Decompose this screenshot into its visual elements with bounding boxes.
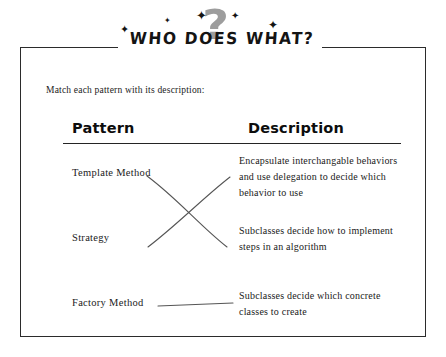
pattern-item-template-method[interactable]: Template Method bbox=[72, 167, 151, 178]
page-title: WHO DOES WHAT? bbox=[113, 29, 330, 48]
pattern-item-strategy[interactable]: Strategy bbox=[72, 232, 109, 243]
banner: ? ✦ ✦ ✦ ✦ ✦ WHO DOES WHAT? bbox=[108, 8, 334, 54]
description-item-factory-method[interactable]: Subclasses decide which concrete classes… bbox=[239, 288, 409, 320]
sparkle-star-icon: ✦ bbox=[231, 11, 239, 21]
description-item-template-method[interactable]: Subclasses decide how to implement steps… bbox=[239, 223, 409, 255]
instruction-text: Match each pattern with its description: bbox=[46, 85, 205, 95]
column-header-pattern: Pattern bbox=[72, 120, 135, 136]
description-item-strategy[interactable]: Encapsulate interchangable behaviors and… bbox=[239, 153, 409, 201]
sparkle-star-icon: ✦ bbox=[164, 17, 171, 25]
worksheet-page: ? ✦ ✦ ✦ ✦ ✦ WHO DOES WHAT? Match each pa… bbox=[0, 0, 446, 357]
pattern-item-factory-method[interactable]: Factory Method bbox=[72, 297, 144, 308]
column-header-description: Description bbox=[248, 120, 344, 136]
header-divider bbox=[63, 143, 401, 144]
